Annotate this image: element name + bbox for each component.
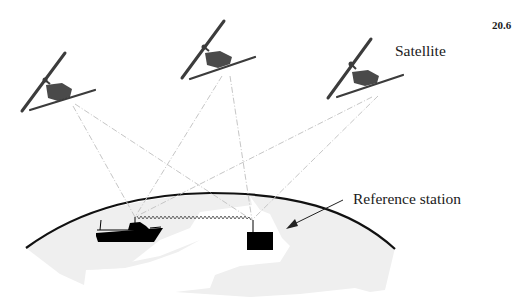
figure-number: 20.6 <box>492 20 511 31</box>
satellite-2-icon <box>182 21 255 79</box>
land-masses <box>26 194 395 297</box>
reference-station-icon <box>247 220 273 250</box>
gps-diagram: 20.6 Satellite Reference station <box>0 0 524 303</box>
land-right <box>175 196 395 297</box>
reference-station-label: Reference station <box>353 191 461 207</box>
satellite-3-icon <box>328 39 403 98</box>
satellite-label: Satellite <box>395 43 446 59</box>
satellite-1-icon <box>22 53 95 111</box>
